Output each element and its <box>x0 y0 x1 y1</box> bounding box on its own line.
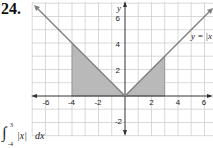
y-tick-neg2: -2 <box>115 117 123 126</box>
function-label: y = |x <box>190 31 212 41</box>
integral-sign: ∫ <box>2 124 6 142</box>
x-tick-6: 6 <box>202 98 207 107</box>
y-axis-arrow-up <box>123 1 127 7</box>
x-tick-neg2: -2 <box>94 98 102 107</box>
upper-limit: 3 <box>10 122 13 128</box>
x-tick-4: 4 <box>176 98 181 107</box>
y-axis-label: y <box>116 3 121 13</box>
y-tick-4: 4 <box>116 40 121 49</box>
x-axis-arrow-right <box>207 94 213 98</box>
y-tick-2: 2 <box>116 66 121 75</box>
y-axis-arrow-down <box>123 130 127 136</box>
x-tick-2: 2 <box>149 98 154 107</box>
integrand: |x| <box>17 130 27 141</box>
differential: dx <box>35 130 44 141</box>
x-tick-neg6: -6 <box>42 98 50 107</box>
grid-lines <box>32 2 213 136</box>
abs-value-graph: -6 -4 -2 2 4 6 6 4 2 -2 y y = |x <box>0 0 213 148</box>
x-tick-neg4: -4 <box>68 98 76 107</box>
y-tick-6: 6 <box>116 14 121 23</box>
lower-limit: -4 <box>8 141 13 147</box>
